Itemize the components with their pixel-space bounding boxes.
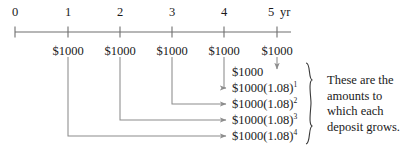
connector-year-2 — [120, 57, 226, 120]
year-label-4: 4 — [221, 6, 227, 19]
year-label-1: 1 — [65, 6, 71, 19]
axis-line-group — [15, 27, 291, 38]
result-exponent-1: 1 — [293, 80, 297, 89]
connector-year-4 — [224, 57, 226, 88]
year-label-2: 2 — [117, 6, 123, 19]
result-factor-4: (1.08) — [263, 129, 293, 143]
result-base-0: $1000 — [232, 65, 263, 79]
result-exponent-4: 4 — [293, 128, 297, 137]
annotation-line-0: These are the — [327, 73, 407, 89]
result-row-3: $1000(1.08)3 — [232, 114, 297, 127]
result-row-1: $1000(1.08)1 — [232, 82, 297, 95]
result-base-3: $1000 — [232, 113, 263, 127]
axis-unit-label: yr — [280, 6, 290, 19]
annotation-line-2: which each — [327, 104, 407, 120]
deposit-label-year-2: $1000 — [104, 45, 135, 58]
result-exponent-3: 3 — [293, 112, 297, 121]
year-label-3: 3 — [169, 6, 175, 19]
result-base-4: $1000 — [232, 129, 263, 143]
deposit-label-year-3: $1000 — [156, 45, 187, 58]
curly-brace-icon — [306, 63, 313, 144]
annotation-note: These are the amounts to which each depo… — [327, 73, 407, 135]
year-label-5: 5 — [268, 6, 274, 19]
deposit-label-year-4: $1000 — [208, 45, 239, 58]
result-row-4: $1000(1.08)4 — [232, 130, 297, 143]
result-factor-1: (1.08) — [263, 81, 293, 95]
result-row-2: $1000(1.08)2 — [232, 98, 297, 111]
year-label-0: 0 — [12, 6, 18, 19]
annotation-line-1: amounts to — [327, 89, 407, 105]
annotation-line-3: deposit grows. — [327, 120, 407, 136]
timeline-diagram: 0 1 2 3 4 5 yr $1000 $1000 $1000 $1000 $… — [0, 0, 407, 156]
deposit-label-year-5: $1000 — [261, 45, 292, 58]
result-base-1: $1000 — [232, 81, 263, 95]
result-factor-2: (1.08) — [263, 97, 293, 111]
result-factor-3: (1.08) — [263, 113, 293, 127]
result-base-2: $1000 — [232, 97, 263, 111]
result-exponent-2: 2 — [293, 96, 297, 105]
connector-year-3 — [172, 57, 226, 104]
result-row-0: $1000 — [232, 66, 263, 79]
connector-year-1 — [68, 57, 226, 136]
deposit-label-year-1: $1000 — [52, 45, 83, 58]
